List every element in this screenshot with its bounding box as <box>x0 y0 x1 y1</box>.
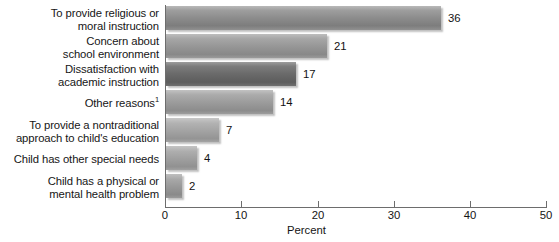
category-label-line1: Child has a physical or <box>48 175 159 187</box>
category-label-line1: To provide a nontraditional <box>29 119 159 131</box>
bar-nontraditional-approach <box>166 118 219 142</box>
category-label-school-environment: Concern about school environment <box>0 35 165 60</box>
category-label-line1: To provide religious or <box>51 7 159 19</box>
bar-value-nontraditional-approach: 7 <box>226 118 232 142</box>
bar-value-academic-instruction: 17 <box>303 62 316 86</box>
bar-value-religious-moral-instruction: 36 <box>448 6 461 30</box>
category-label-line1: Child has other special needs <box>14 153 159 165</box>
x-axis-tick-label-50: 50 <box>540 209 553 221</box>
category-label-nontraditional-approach: To provide a nontraditional approach to … <box>0 119 165 144</box>
bar-value-physical-mental-health: 2 <box>189 174 195 198</box>
x-axis-title: Percent <box>233 224 326 236</box>
x-axis-tick-label-40: 40 <box>464 209 477 221</box>
bar-fill <box>166 118 219 142</box>
x-axis-line <box>165 207 547 208</box>
x-axis-tick-label-30: 30 <box>388 209 401 221</box>
bar-fill <box>166 174 182 198</box>
x-axis-tick-10 <box>241 201 242 207</box>
category-label-other-special-needs: Child has other special needs <box>0 153 165 166</box>
x-axis-tick-20 <box>318 201 319 207</box>
category-label-religious-moral-instruction: To provide religious or moral instructio… <box>0 7 165 32</box>
x-axis-tick-0 <box>165 201 166 207</box>
bar-other-special-needs <box>166 146 197 170</box>
y-axis-line <box>165 5 166 208</box>
x-axis-title-wrap: Percent <box>0 224 559 236</box>
category-label-line2: mental health problem <box>0 188 159 201</box>
footnote-marker: 1 <box>155 95 159 104</box>
x-axis-tick-50 <box>546 201 547 207</box>
bar-value-school-environment: 21 <box>334 34 347 58</box>
category-label-line2: academic instruction <box>0 76 159 89</box>
x-axis-tick-label-20: 20 <box>312 209 325 221</box>
bar-academic-instruction <box>166 62 296 86</box>
bar-chart: To provide religious or moral instructio… <box>0 0 559 242</box>
bar-school-environment <box>166 34 327 58</box>
category-label-physical-mental-health: Child has a physical or mental health pr… <box>0 175 165 200</box>
x-axis-tick-40 <box>470 201 471 207</box>
x-axis-tick-label-0: 0 <box>162 209 168 221</box>
bar-religious-moral-instruction <box>166 6 441 30</box>
category-label-line1: Concern about <box>86 35 159 47</box>
bar-value-other-special-needs: 4 <box>204 146 210 170</box>
bar-fill <box>166 34 327 58</box>
bar-value-other-reasons: 14 <box>280 90 293 114</box>
bar-physical-mental-health <box>166 174 182 198</box>
category-label-line2: approach to child's education <box>0 132 159 145</box>
x-axis-tick-label-10: 10 <box>235 209 248 221</box>
category-label-other-reasons: Other reasons1 <box>0 97 165 110</box>
x-axis-tick-30 <box>394 201 395 207</box>
bar-fill <box>166 6 441 30</box>
bar-fill <box>166 146 197 170</box>
bar-fill <box>166 62 296 86</box>
category-label-line2: school environment <box>0 48 159 61</box>
category-label-academic-instruction: Dissatisfaction with academic instructio… <box>0 63 165 88</box>
bar-other-reasons <box>166 90 273 114</box>
category-label-line1: Dissatisfaction with <box>65 63 159 75</box>
bar-fill <box>166 90 273 114</box>
category-label-line1: Other reasons <box>85 97 155 109</box>
category-label-line2: moral instruction <box>0 20 159 33</box>
